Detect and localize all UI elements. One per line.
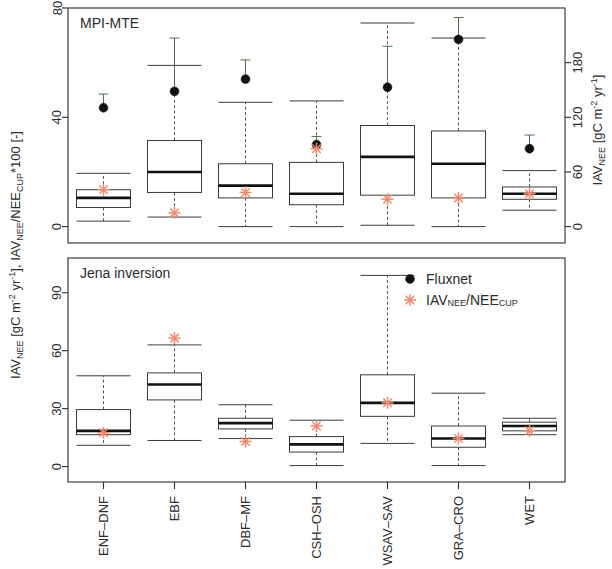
box-iqr (361, 126, 415, 196)
panels-group: 04080060120180MPI-MTE0306090Jena inversi… (50, 1, 586, 482)
fluxnet-marker (170, 87, 179, 96)
boxplot-figure: IAVNEE [gC m-2 yr-1], IAVNEE/NEECUP*100 … (0, 0, 612, 569)
ratio-marker-WET (524, 188, 536, 200)
left-axis-ticks: 0306090 (50, 286, 69, 471)
ratio-marker-ENF-DNF (98, 427, 110, 439)
fluxnet-point-WET (525, 135, 535, 153)
y-tick-label: 60 (50, 343, 65, 357)
left-axis-title: IAVNEE [gC m-2 yr-1], IAVNEE/NEECUP*100 … (7, 131, 25, 379)
ratio-marker-CSH-OSH (311, 420, 323, 432)
ratio-marker-EBF (169, 332, 181, 344)
left-axis-title-text: IAVNEE [gC m-2 yr-1], IAVNEE/NEECUP*100 … (7, 131, 25, 379)
x-category-label: ENF–DNF (96, 496, 111, 556)
legend-item-fluxnet: Fluxnet (406, 271, 472, 287)
right-axis-ticks: 060120180 (565, 52, 586, 230)
ratio-marker-WSAV-SAV (382, 397, 394, 409)
x-category-label: WET (522, 496, 537, 525)
legend-ratio-marker (404, 294, 416, 306)
ratio-marker-DBF-MF (240, 435, 252, 447)
fluxnet-marker (383, 83, 392, 92)
legend-fluxnet-marker (406, 275, 415, 284)
fluxnet-point-ENF-DNF (99, 94, 109, 112)
x-category-label: CSH–OSH (309, 496, 324, 559)
boxplot-DBF-MF (219, 102, 273, 226)
fluxnet-marker (99, 103, 108, 112)
y-tick-label: 40 (50, 110, 65, 124)
ratio-marker-CSH-OSH (311, 143, 323, 155)
ratio-marker-WSAV-SAV (382, 193, 394, 205)
y-tick-label: 0 (50, 463, 65, 470)
y-tick-label: 90 (50, 286, 65, 300)
right-axis-title-text: IAVNEE [gC m-2 yr-1] (589, 75, 607, 186)
fluxnet-point-GRA-CRO (454, 18, 464, 44)
boxplot-CSH-OSH (290, 101, 344, 227)
legend-fluxnet-label: Fluxnet (426, 271, 472, 287)
y-tick-label: 80 (50, 1, 65, 15)
ratio-marker-DBF-MF (240, 186, 252, 198)
panel-title: Jena inversion (80, 265, 170, 281)
boxplot-GRA-CRO (432, 393, 486, 465)
figure-container: IAVNEE [gC m-2 yr-1], IAVNEE/NEECUP*100 … (0, 0, 612, 569)
legend-item-ratio: IAVNEE/NEECUP (404, 292, 518, 308)
legend-ratio-label: IAVNEE/NEECUP (426, 292, 518, 308)
ratio-marker-WET (524, 425, 536, 437)
y2-tick-label: 120 (571, 106, 586, 128)
fluxnet-marker (241, 75, 250, 84)
box-iqr (148, 141, 202, 193)
panel-title: MPI-MTE (80, 15, 139, 31)
y2-tick-label: 60 (571, 165, 586, 179)
right-axis-title: IAVNEE [gC m-2 yr-1] (589, 75, 607, 186)
x-category-label: EBF (167, 496, 182, 521)
left-axis-ticks: 04080 (50, 1, 69, 230)
boxplot-DBF-MF (219, 405, 273, 439)
category-axis-labels: ENF–DNFEBFDBF–MFCSH–OSHWSAV–SAVGRA–CROWE… (96, 482, 537, 566)
fluxnet-point-WSAV-SAV (383, 46, 393, 91)
fluxnet-point-DBF-MF (241, 60, 251, 84)
x-category-label: DBF–MF (238, 496, 253, 548)
box-iqr (290, 162, 344, 204)
fluxnet-marker (454, 35, 463, 44)
boxplot-ENF-DNF (77, 173, 131, 221)
legend: FluxnetIAVNEE/NEECUP (404, 271, 518, 308)
boxplot-EBF (148, 345, 202, 441)
ratio-marker-GRA-CRO (453, 192, 465, 204)
fluxnet-point-EBF (170, 38, 180, 96)
y-tick-label: 30 (50, 401, 65, 415)
box-iqr (361, 375, 415, 417)
y2-tick-label: 180 (571, 52, 586, 74)
fluxnet-marker (525, 144, 534, 153)
ratio-marker-GRA-CRO (453, 433, 465, 445)
y-tick-label: 0 (50, 223, 65, 230)
ratio-marker-EBF (169, 207, 181, 219)
panel-top: 04080060120180MPI-MTE (50, 1, 586, 243)
panel-frame (68, 8, 565, 243)
box-iqr (148, 373, 202, 400)
x-category-label: WSAV–SAV (380, 496, 395, 566)
ratio-marker-ENF-DNF (98, 184, 110, 196)
x-category-label: GRA–CRO (451, 496, 466, 560)
y2-tick-label: 0 (571, 223, 586, 230)
